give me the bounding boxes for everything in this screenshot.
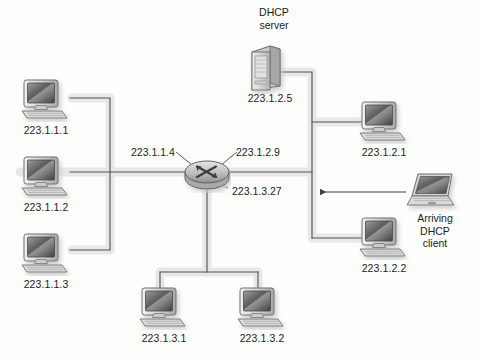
desktop-computer-icon [18, 78, 74, 122]
device-host-223-1-1-1[interactable] [18, 78, 74, 122]
label-router-interface-223-1-2-9: 223.1.2.9 [236, 146, 280, 158]
label-host-223-1-2-1: 223.1.2.1 [350, 146, 418, 158]
device-arriving-dhcp-client[interactable] [406, 172, 462, 212]
label-router-interface-223-1-3-27: 223.1.3.27 [232, 185, 282, 197]
network-diagram-canvas: 223.1.1.1 223.1.1.2 [0, 0, 480, 360]
caption-arriving-dhcp-client: Arriving DHCP client [396, 212, 474, 250]
desktop-computer-icon [136, 286, 192, 330]
desktop-computer-icon [18, 232, 74, 276]
device-host-223-1-3-2[interactable] [234, 286, 290, 330]
device-host-223-1-3-1[interactable] [136, 286, 192, 330]
desktop-computer-icon [234, 286, 290, 330]
server-tower-icon [244, 42, 288, 94]
laptop-icon [406, 172, 462, 212]
label-router-interface-223-1-1-4: 223.1.1.4 [131, 146, 175, 158]
device-host-223-1-2-1[interactable] [356, 100, 412, 144]
label-host-223-1-2-2: 223.1.2.2 [350, 262, 418, 274]
desktop-computer-icon [356, 100, 412, 144]
label-host-223-1-3-1: 223.1.3.1 [130, 332, 198, 344]
label-dhcp-server: 223.1.2.5 [236, 92, 304, 104]
label-host-223-1-1-2: 223.1.1.2 [12, 201, 80, 213]
device-dhcp-server[interactable] [244, 42, 288, 94]
label-host-223-1-1-1: 223.1.1.1 [12, 124, 80, 136]
caption-dhcp-server: DHCP server [234, 6, 314, 31]
device-core-router[interactable] [183, 151, 231, 193]
router-icon [183, 151, 231, 193]
label-host-223-1-1-3: 223.1.1.3 [12, 278, 80, 290]
device-host-223-1-1-3[interactable] [18, 232, 74, 276]
label-host-223-1-3-2: 223.1.3.2 [228, 332, 296, 344]
desktop-computer-icon [18, 155, 74, 199]
device-host-223-1-1-2[interactable] [18, 155, 74, 199]
